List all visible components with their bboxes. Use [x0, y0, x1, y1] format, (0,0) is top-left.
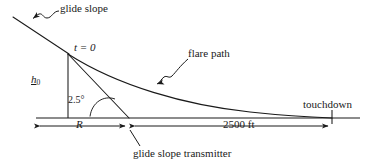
touchdown-label: touchdown: [303, 99, 352, 110]
initial-altitude-label: h0: [31, 74, 40, 85]
flare-path-label: flare path: [188, 48, 230, 59]
glide-slope-label: glide slope: [60, 3, 108, 14]
glide-slope-lower-line: [68, 54, 129, 118]
flare-path-leader-arrow: [157, 59, 188, 84]
h0-symbol: h: [31, 73, 37, 85]
distance-label: 2500 ft: [223, 119, 254, 130]
diagram-canvas: [0, 0, 368, 167]
range-label: R: [76, 119, 83, 130]
flare-path-curve: [68, 54, 332, 118]
transmitter-label: glide slope transmitter: [133, 148, 231, 159]
flare-path-diagram: glide slope t = 0 h0 2.5° flare path tou…: [0, 0, 368, 167]
time-zero-label: t = 0: [74, 42, 95, 53]
glide-slope-leader-arrow: [33, 11, 59, 19]
angle-arc: [90, 98, 115, 117]
h0-subscript: 0: [37, 78, 41, 87]
glide-slope-upper-line: [13, 17, 69, 54]
transmitter-leader-line: [130, 130, 140, 146]
glide-angle-label: 2.5°: [68, 95, 85, 105]
